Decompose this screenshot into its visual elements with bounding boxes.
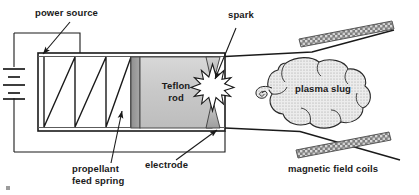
label-magnetic-field-coils: magnetic field coils [288,163,378,174]
scan-artifact-dot [6,186,10,190]
label-power-source: power source [35,7,98,18]
leader-power-source [43,22,70,54]
label-plasma-slug: plasma slug [295,83,351,94]
label-propellant-line2: feed spring [72,175,124,186]
label-spark: spark [228,9,254,20]
diagram-canvas: power source spark plasma slug Teflon ro… [0,0,419,195]
label-electrode: electrode [145,159,188,170]
leader-electrode [176,130,217,160]
label-propellant-line1: propellant [72,163,119,174]
label-teflon-rod-line2: rod [148,92,204,103]
label-teflon-rod-line1: Teflon [148,80,204,91]
battery-cell-icon [3,69,25,99]
